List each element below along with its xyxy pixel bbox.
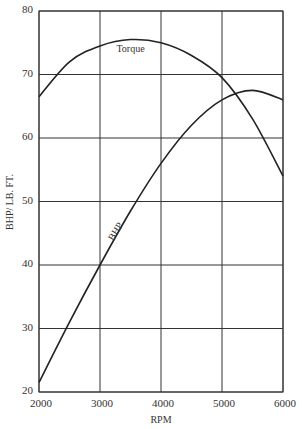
x-axis-ticks: 20003000400050006000	[30, 397, 297, 409]
x-axis-label: RPM	[150, 414, 171, 425]
y-tick-label: 20	[22, 384, 34, 396]
y-tick-label: 60	[22, 130, 34, 142]
x-tick-label: 5000	[213, 397, 236, 409]
torque-curve-label: Torque	[116, 43, 145, 54]
x-tick-label: 3000	[91, 397, 114, 409]
x-tick-label: 2000	[30, 397, 53, 409]
y-tick-label: 70	[22, 67, 34, 79]
bhp-curve-label: BHP	[106, 220, 126, 243]
x-tick-label: 6000	[274, 397, 297, 409]
chart: 20304050607080 20003000400050006000 Torq…	[0, 0, 302, 429]
y-axis-label: BHP/ LB. FT.	[4, 174, 15, 230]
y-tick-label: 80	[22, 3, 34, 15]
grid	[39, 11, 283, 392]
y-tick-label: 40	[22, 257, 34, 269]
y-tick-label: 30	[22, 321, 34, 333]
y-axis-ticks: 20304050607080	[22, 3, 34, 396]
y-tick-label: 50	[22, 194, 34, 206]
x-tick-label: 4000	[152, 397, 175, 409]
